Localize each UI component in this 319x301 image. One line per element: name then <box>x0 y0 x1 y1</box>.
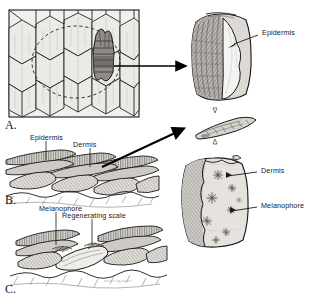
label-epidermis-right: Epidermis <box>262 28 295 37</box>
panel-letter-c: C. <box>5 282 16 297</box>
label-melanophore-right: Melanophore <box>261 201 304 210</box>
label-dermis-b: Dermis <box>73 140 96 149</box>
panel-letter-b: B. <box>5 193 16 208</box>
figure-scale-regeneration: Epidermis Dermis Melanophore Epidermis D… <box>0 0 319 301</box>
scale-edge-on-artwork <box>196 117 256 139</box>
scale-epidermis-artwork <box>192 13 258 100</box>
scale-melanophore-artwork <box>182 155 257 247</box>
label-regenerating-scale-c: Regenerating scale <box>62 211 126 220</box>
artist-signature: artist signature <box>104 279 132 283</box>
label-epidermis-b: Epidermis <box>30 133 63 142</box>
label-dermis-right: Dermis <box>261 166 284 175</box>
figure-artwork <box>0 0 319 301</box>
panel-c-artwork <box>10 212 167 288</box>
panel-letter-a: A. <box>5 118 17 133</box>
panel-a-artwork <box>9 10 139 117</box>
